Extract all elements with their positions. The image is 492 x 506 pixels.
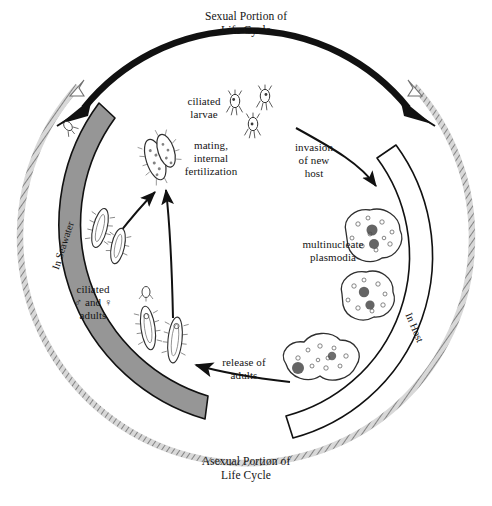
- sexual-arc: [57, 30, 435, 126]
- label-plasmodia: multinucleate plasmodia: [288, 238, 378, 264]
- life-cycle-figure: Sexual Portion of Life Cycle Asexual Por…: [0, 0, 492, 506]
- label-invasion: invasion of new host: [285, 141, 343, 180]
- label-asexual-portion: Asexual Portion of Life Cycle: [181, 455, 311, 482]
- label-release-of-adults: release of adults: [211, 356, 277, 382]
- label-mating: mating, internal fertilization: [172, 139, 250, 178]
- label-ciliated-adults: ciliated ♂ and ♀ adults: [62, 283, 124, 322]
- label-ciliated-larvae: ciliated larvae: [176, 95, 232, 121]
- diagram-canvas: [0, 0, 492, 506]
- label-sexual-portion: Sexual Portion of Life Cycle: [181, 10, 311, 37]
